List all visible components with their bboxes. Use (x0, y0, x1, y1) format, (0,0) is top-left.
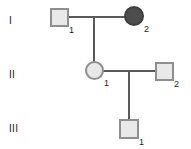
individual-number-ii-1: 1 (104, 79, 109, 88)
descent-line-generation-i-to-ii (93, 16, 95, 64)
individual-symbol-i-1[interactable] (50, 8, 69, 27)
generation-label-iii: III (9, 124, 18, 134)
individual-number-i-2: 2 (144, 25, 149, 34)
generation-label-i: I (9, 16, 12, 26)
generation-label-ii: II (9, 70, 15, 80)
individual-number-ii-2: 2 (174, 80, 179, 89)
individual-symbol-i-2[interactable] (124, 6, 144, 26)
individual-number-iii-1: 1 (139, 138, 144, 147)
pedigree-chart: I II III 1 2 1 2 1 (0, 0, 191, 149)
descent-line-generation-ii-to-iii (128, 70, 130, 120)
individual-symbol-iii-1[interactable] (119, 119, 139, 139)
mating-line-generation-i (68, 16, 125, 18)
individual-symbol-ii-1[interactable] (85, 61, 104, 80)
individual-number-i-1: 1 (69, 26, 74, 35)
individual-symbol-ii-2[interactable] (155, 62, 174, 81)
